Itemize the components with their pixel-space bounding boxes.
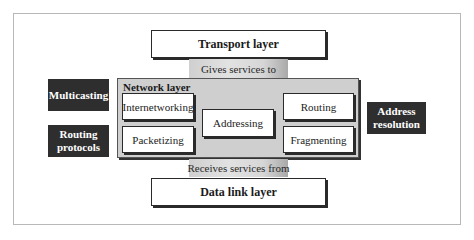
gives-services-connector: Gives services to: [189, 59, 288, 78]
routing-protocols-box: Routing protocols: [48, 125, 109, 157]
transport-layer-label: Transport layer: [198, 37, 279, 52]
data-link-layer-label: Data link layer: [200, 185, 277, 200]
addressing-box: Addressing: [202, 109, 274, 137]
receives-services-connector: Receives services from: [189, 159, 288, 177]
address-resolution-box: Address resolution: [367, 102, 426, 134]
internetworking-label: Internetworking: [123, 101, 194, 113]
multicasting-box: Multicasting: [48, 79, 109, 111]
internetworking-box: Internetworking: [122, 93, 194, 120]
multicasting-label: Multicasting: [49, 89, 108, 102]
transport-layer-box: Transport layer: [151, 30, 326, 58]
addressing-label: Addressing: [213, 117, 263, 129]
packetizing-label: Packetizing: [132, 134, 183, 146]
routing-label: Routing: [301, 101, 336, 113]
receives-services-label: Receives services from: [188, 162, 290, 174]
gives-services-label: Gives services to: [201, 63, 276, 75]
address-resolution-label: Address resolution: [373, 105, 420, 131]
data-link-layer-box: Data link layer: [151, 178, 326, 206]
packetizing-box: Packetizing: [122, 126, 194, 153]
fragmenting-box: Fragmenting: [283, 126, 354, 153]
routing-protocols-label: Routing protocols: [56, 128, 101, 154]
fragmenting-label: Fragmenting: [290, 134, 346, 146]
routing-box: Routing: [283, 93, 354, 120]
network-layer-title: Network layer: [123, 81, 191, 93]
